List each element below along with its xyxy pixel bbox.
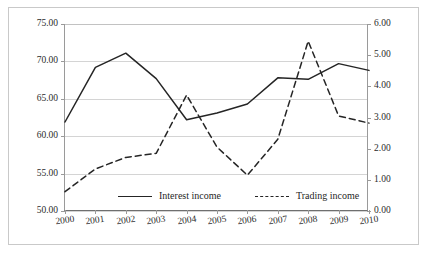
legend-item-interest-income: Interest income — [118, 191, 221, 201]
series-interest-income — [65, 53, 369, 122]
legend-label: Interest income — [159, 191, 221, 201]
left-axis-tick-label: 50.00 — [37, 206, 58, 216]
legend-item-trading-income: Trading income — [255, 191, 359, 201]
right-axis-tick-label: 3.00 — [374, 113, 391, 123]
series-plot — [65, 24, 369, 211]
plot-area: 50.0055.0060.0065.0070.0075.00 0.001.002… — [64, 24, 368, 211]
right-axis-tick-label: 5.00 — [374, 50, 391, 60]
right-axis-tick-label: 1.00 — [374, 175, 391, 185]
left-axis-tick-label: 65.00 — [37, 94, 58, 104]
right-axis-tick-label: 6.00 — [374, 19, 391, 29]
x-axis-tick — [369, 210, 370, 214]
left-axis-tick-label: 75.00 — [37, 19, 58, 29]
left-axis-tick-label: 70.00 — [37, 56, 58, 66]
right-axis-tick-label: 4.00 — [374, 81, 391, 91]
legend-label: Trading income — [296, 191, 359, 201]
chart-legend: Interest income Trading income — [118, 188, 358, 204]
left-axis-tick-label: 55.00 — [37, 169, 58, 179]
legend-swatch-dashed-icon — [255, 196, 289, 197]
gridline — [65, 211, 367, 212]
chart-figure: 50.0055.0060.0065.0070.0075.00 0.001.002… — [0, 0, 427, 253]
legend-swatch-solid-icon — [118, 196, 152, 197]
right-axis-tick-label: 2.00 — [374, 144, 391, 154]
series-trading-income — [65, 41, 369, 192]
left-axis-tick-label: 60.00 — [37, 131, 58, 141]
